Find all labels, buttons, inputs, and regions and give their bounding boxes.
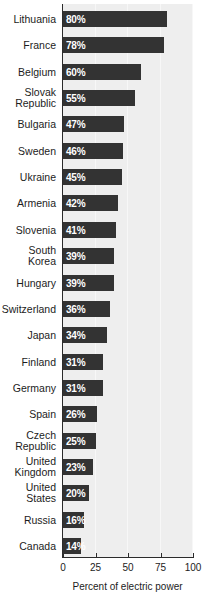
bar: 23% <box>63 459 93 475</box>
category-label: Bulgaria <box>0 119 56 130</box>
tick-label: 0 <box>60 562 66 573</box>
bar-row: France78% <box>0 37 207 53</box>
bar: 14% <box>63 538 81 554</box>
bar-value-label: 31% <box>66 356 85 367</box>
bar-value-label: 45% <box>66 172 85 183</box>
tick-label: 75 <box>155 562 166 573</box>
tick-label: 100 <box>185 562 202 573</box>
category-label: Belgium <box>0 66 56 77</box>
category-label: Slovak Republic <box>0 87 56 109</box>
bar-row: Russia16% <box>0 512 207 528</box>
bar-value-label: 31% <box>66 382 85 393</box>
bar-value-label: 41% <box>66 224 85 235</box>
bar-row: Spain26% <box>0 406 207 422</box>
bar-row: Sweden46% <box>0 143 207 159</box>
category-label: Japan <box>0 330 56 341</box>
category-label: Sweden <box>0 145 56 156</box>
bar: 39% <box>63 248 114 264</box>
bar-row: United States20% <box>0 485 207 501</box>
bar-value-label: 39% <box>66 251 85 262</box>
bar-row: Slovak Republic55% <box>0 90 207 106</box>
bar: 45% <box>63 169 122 185</box>
category-label: Canada <box>0 541 56 552</box>
bar: 31% <box>63 354 103 370</box>
category-label: Germany <box>0 382 56 393</box>
bar-value-label: 16% <box>66 514 85 525</box>
tick-label: 50 <box>122 562 133 573</box>
bar-value-label: 14% <box>66 541 85 552</box>
tick-label: 25 <box>90 562 101 573</box>
bar-row: South Korea39% <box>0 248 207 264</box>
category-label: Armenia <box>0 198 56 209</box>
bar-value-label: 80% <box>66 14 85 25</box>
category-label: Lithuania <box>0 14 56 25</box>
bar-value-label: 60% <box>66 66 85 77</box>
bar: 42% <box>63 195 118 211</box>
bar-row: United Kingdom23% <box>0 459 207 475</box>
bar: 20% <box>63 485 89 501</box>
bar-row: Japan34% <box>0 327 207 343</box>
bar-value-label: 26% <box>66 409 85 420</box>
category-label: Switzerland <box>0 303 56 314</box>
category-label: Czech Republic <box>0 430 56 452</box>
bar: 31% <box>63 380 103 396</box>
x-axis-title: Percent of electric power <box>62 581 193 592</box>
bar-row: Germany31% <box>0 380 207 396</box>
bar-value-label: 34% <box>66 330 85 341</box>
bar: 39% <box>63 275 114 291</box>
category-label: United Kingdom <box>0 456 56 478</box>
bar-value-label: 25% <box>66 435 85 446</box>
bar: 46% <box>63 143 123 159</box>
bar-row: Lithuania80% <box>0 11 207 27</box>
category-label: Ukraine <box>0 172 56 183</box>
bar: 41% <box>63 222 116 238</box>
bar-row: Finland31% <box>0 354 207 370</box>
bar: 47% <box>63 116 124 132</box>
bar-value-label: 42% <box>66 198 85 209</box>
bar-row: Canada14% <box>0 538 207 554</box>
bar-row: Czech Republic25% <box>0 433 207 449</box>
category-label: Hungary <box>0 277 56 288</box>
bar-value-label: 39% <box>66 277 85 288</box>
bar-value-label: 55% <box>66 93 85 104</box>
bar: 60% <box>63 64 141 80</box>
category-label: Finland <box>0 356 56 367</box>
bar-row: Bulgaria47% <box>0 116 207 132</box>
bar-row: Belgium60% <box>0 64 207 80</box>
bar-row: Slovenia41% <box>0 222 207 238</box>
bar-row: Hungary39% <box>0 275 207 291</box>
bar: 55% <box>63 90 135 106</box>
bar-value-label: 47% <box>66 119 85 130</box>
bar: 26% <box>63 406 97 422</box>
bar: 25% <box>63 433 96 449</box>
bar-value-label: 78% <box>66 40 85 51</box>
bar-value-label: 46% <box>66 145 85 156</box>
bar: 36% <box>63 301 110 317</box>
bar: 78% <box>63 37 164 53</box>
bar: 16% <box>63 512 84 528</box>
bar-chart: Lithuania80%France78%Belgium60%Slovak Re… <box>0 0 207 605</box>
bar-row: Switzerland36% <box>0 301 207 317</box>
category-label: South Korea <box>0 245 56 267</box>
bar-row: Ukraine45% <box>0 169 207 185</box>
category-label: France <box>0 40 56 51</box>
bar-value-label: 23% <box>66 461 85 472</box>
bar: 80% <box>63 11 167 27</box>
category-label: United States <box>0 482 56 504</box>
category-label: Spain <box>0 409 56 420</box>
bar-value-label: 20% <box>66 488 85 499</box>
category-label: Russia <box>0 514 56 525</box>
bar-value-label: 36% <box>66 303 85 314</box>
bar-row: Armenia42% <box>0 195 207 211</box>
category-label: Slovenia <box>0 224 56 235</box>
bar: 34% <box>63 327 107 343</box>
